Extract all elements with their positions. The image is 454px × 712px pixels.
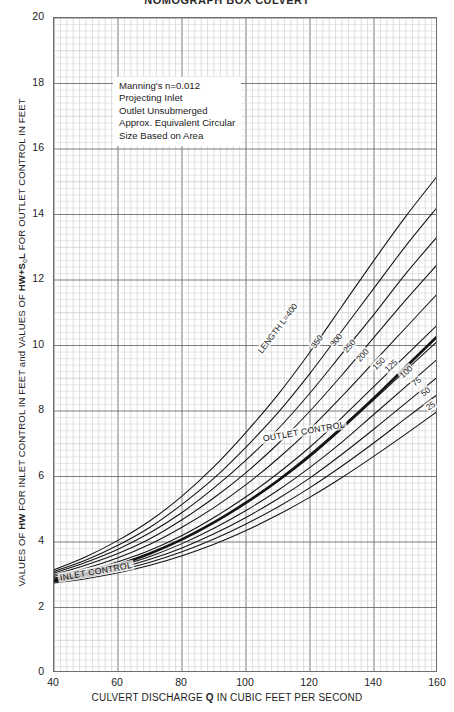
x-tick-40: 40 <box>33 676 73 688</box>
x-tick-120: 120 <box>289 676 329 688</box>
x-axis-title: CULVERT DISCHARGE Q IN CUBIC FEET PER SE… <box>0 692 454 703</box>
note-line-5: Size Based on Area <box>119 130 235 142</box>
y-axis-title-pre: VALUES OF <box>16 530 27 587</box>
note-line-4: Approx. Equivalent Circular <box>119 117 235 129</box>
y-axis-title-mid: FOR INLET CONTROL IN FEET and VALUES OF <box>16 291 27 513</box>
y-axis-title-sub: o <box>21 259 28 263</box>
y-axis-title-post: FOR OUTLET CONTROL IN FEET <box>16 98 27 253</box>
x-axis-title-post: IN CUBIC FEET PER SECOND <box>214 692 363 703</box>
nomograph-page: NOMOGRAPH BOX CULVERT 02468101214161820 … <box>0 0 454 712</box>
assumptions-note-box: Manning's n=0.012Projecting InletOutlet … <box>113 77 241 146</box>
y-axis-title-hwsl: HW+S <box>16 263 27 291</box>
note-line-1: Manning's n=0.012 <box>119 80 235 92</box>
y-axis-title: VALUES OF HW FOR INLET CONTROL IN FEET a… <box>16 12 29 672</box>
x-tick-80: 80 <box>161 676 201 688</box>
y-axis-title-hw: HW <box>16 514 27 530</box>
note-line-3: Outlet Unsubmerged <box>119 105 235 117</box>
y-axis-title-l: L <box>16 253 27 259</box>
x-tick-140: 140 <box>353 676 393 688</box>
x-tick-100: 100 <box>225 676 265 688</box>
x-tick-160: 160 <box>417 676 454 688</box>
x-tick-60: 60 <box>97 676 137 688</box>
x-axis-title-symbol: Q <box>206 692 214 703</box>
note-line-2: Projecting Inlet <box>119 92 235 104</box>
x-axis-title-pre: CULVERT DISCHARGE <box>92 692 206 703</box>
